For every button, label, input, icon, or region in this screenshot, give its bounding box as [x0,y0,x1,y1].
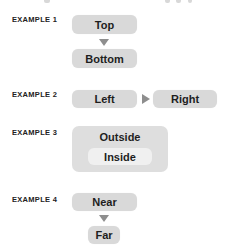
right-box: Right [153,90,217,108]
outside-container: Outside Inside [72,126,168,172]
example-3-label: EXAMPLE 3 [12,128,57,137]
top-box: Top [72,15,137,34]
clipped-text-fragment [188,0,192,3]
down-arrow-icon [99,215,109,222]
left-box: Left [72,90,137,108]
clipped-text-fragment [176,0,181,3]
down-arrow-icon [99,39,109,46]
far-box: Far [88,226,120,244]
near-box: Near [72,193,137,211]
right-arrow-icon [142,94,150,104]
inside-box: Inside [88,148,152,165]
example-1-label: EXAMPLE 1 [12,15,57,24]
example-4-label: EXAMPLE 4 [12,195,57,204]
bottom-box: Bottom [72,49,137,68]
example-2-label: EXAMPLE 2 [12,90,57,99]
outside-label: Outside [72,131,168,143]
clipped-text-fragment [165,0,170,3]
clipped-text-fragment [44,0,50,3]
